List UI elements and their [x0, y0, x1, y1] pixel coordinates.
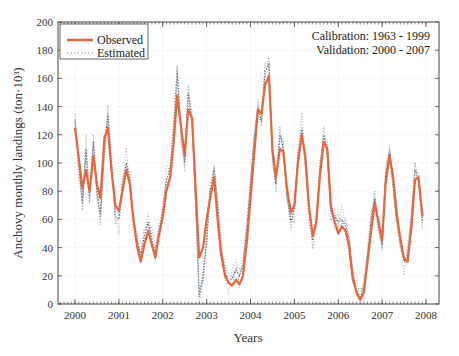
y-axis-title-text: Anchovy monthly landings (ton·10³): [10, 67, 25, 258]
x-tick-label: 2001: [108, 309, 130, 321]
y-tick-label: 200: [37, 16, 54, 28]
x-tick-label: 2006: [327, 309, 350, 321]
legend-observed-label: Observed: [97, 33, 143, 47]
y-tick-label: 180: [37, 44, 54, 56]
series-estimated-line: [75, 57, 423, 304]
validation-note: Validation: 2000 - 2007: [316, 43, 430, 57]
y-tick-label: 100: [37, 157, 54, 169]
observed-line: [75, 76, 423, 300]
y-tick-label: 160: [37, 72, 54, 84]
x-axis-title: Years: [233, 330, 262, 345]
grid-lines: [58, 22, 439, 304]
estimated-line: [75, 64, 423, 297]
y-tick-label: 80: [42, 185, 54, 197]
y-tick-label: 40: [42, 242, 54, 254]
y-tick-label: 0: [48, 298, 54, 310]
y-tick-labels: 020406080100120140160180200: [37, 16, 54, 310]
series-observed-line: [75, 76, 423, 300]
calibration-note: Calibration: 1963 - 1999: [312, 29, 430, 43]
x-tick-labels: 200020012002200320042005200620072008: [64, 309, 438, 321]
x-tick-label: 2000: [64, 309, 87, 321]
x-tick-label: 2004: [240, 309, 263, 321]
legend-estimated-label: Estimated: [97, 46, 145, 60]
x-tick-label: 2008: [415, 309, 438, 321]
y-tick-label: 140: [37, 101, 54, 113]
y-axis-title: Anchovy monthly landings (ton·10³): [10, 67, 25, 258]
x-tick-label: 2005: [283, 309, 306, 321]
estimated-line: [75, 66, 423, 304]
chart-canvas: 200020012002200320042005200620072008 020…: [0, 0, 459, 356]
x-tick-label: 2002: [152, 309, 174, 321]
y-tick-label: 120: [37, 129, 54, 141]
y-tick-label: 20: [42, 270, 54, 282]
estimated-line: [75, 57, 423, 301]
x-tick-label: 2003: [196, 309, 219, 321]
legend: Observed Estimated: [60, 24, 148, 60]
x-tick-label: 2007: [371, 309, 394, 321]
y-tick-label: 60: [42, 213, 54, 225]
